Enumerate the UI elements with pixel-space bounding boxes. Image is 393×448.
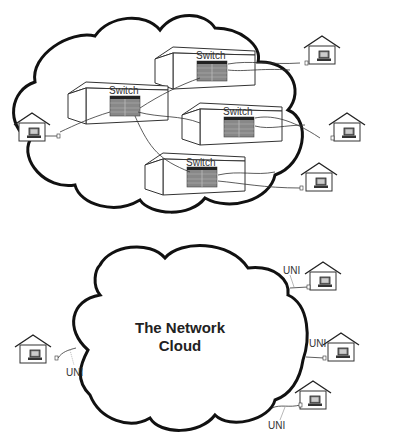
switch-label: Switch	[186, 157, 215, 168]
cloud-title-line2: Cloud	[159, 337, 202, 354]
top-network-diagram: Switch Switch Switch Switch	[14, 16, 365, 213]
house-icon	[323, 333, 359, 361]
switch-label: Switch	[223, 106, 252, 117]
cloud-title-line1: The Network	[135, 319, 226, 336]
switch-label: Switch	[196, 50, 225, 61]
bottom-network-diagram: The Network Cloud UNI UNI UNI UNI	[15, 246, 359, 431]
house-icon	[329, 113, 365, 141]
house-icon	[304, 36, 340, 64]
house-icon	[15, 335, 51, 363]
uni-label: UNI	[268, 420, 285, 431]
uni-label: UNI	[66, 367, 83, 378]
uni-label: UNI	[309, 338, 326, 349]
house-icon	[305, 262, 341, 290]
switch-label: Switch	[109, 85, 138, 96]
house-icon	[301, 163, 337, 191]
uni-label: UNI	[283, 265, 300, 276]
